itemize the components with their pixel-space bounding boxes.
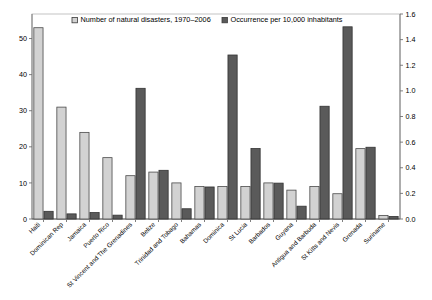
bar-disasters-count [149,172,158,219]
category-label: Haiti [27,221,41,235]
legend-swatch-occurrence [222,17,227,22]
bar-disasters-count [356,149,365,219]
bar-occurrence-rate [67,214,76,219]
right-axis-tick-label: 0.4 [406,163,416,172]
left-axis-tick-label: 30 [19,106,27,115]
left-axis-tick-label: 20 [19,142,27,151]
category-label: Barbados [247,221,271,245]
left-axis-tick-label: 10 [19,179,27,188]
left-axis-tick-label: 40 [19,70,27,79]
bar-disasters-count [218,187,227,219]
bar-occurrence-rate [251,149,260,219]
bar-occurrence-rate [389,216,398,219]
bar-occurrence-rate [113,215,122,219]
bar-disasters-count [310,187,319,219]
bar-occurrence-rate [44,211,53,219]
bar-disasters-count [333,194,342,219]
category-label: Bahamas [178,221,202,245]
bar-occurrence-rate [366,147,375,219]
category-label: Jamaica [65,220,87,242]
left-axis-tick-label: 50 [19,34,27,43]
bar-disasters-count [241,187,250,219]
legend-label-disasters: Number of natural disasters, 1970–2006 [81,15,211,24]
bar-disasters-count [287,190,296,219]
category-label: Guyana [273,220,295,242]
chart-legend: Number of natural disasters, 1970–2006Oc… [72,15,343,24]
bar-occurrence-rate [136,88,145,219]
right-axis-tick-label: 1.2 [406,61,416,70]
bar-disasters-count [264,183,273,219]
bar-chart-figure: 010203040500.00.20.40.60.81.01.21.41.6Ha… [0,0,432,300]
right-axis-tick-label: 0.8 [406,112,416,121]
bar-occurrence-rate [274,183,283,219]
category-label: Trinidad and Tobago [133,220,180,267]
chart-canvas: 010203040500.00.20.40.60.81.01.21.41.6Ha… [0,0,432,300]
bar-occurrence-rate [205,187,214,219]
bar-occurrence-rate [320,106,329,219]
bar-occurrence-rate [228,55,237,219]
category-label: Suriname [362,220,387,245]
right-axis-tick-label: 0.6 [406,138,416,147]
bar-occurrence-rate [297,206,306,219]
bar-occurrence-rate [90,213,99,219]
category-label: St Lucia [227,220,249,242]
category-label: Dominica [201,220,225,244]
bar-disasters-count [195,187,204,219]
bar-disasters-count [34,28,43,219]
right-axis-tick-label: 1.6 [406,10,416,19]
left-axis-tick-label: 0 [23,215,27,224]
right-axis-tick-label: 1.4 [406,35,416,44]
bar-disasters-count [80,132,89,219]
legend-swatch-disasters [72,17,77,22]
legend-label-occurrence: Occurrence per 10,000 inhabitants [231,15,343,24]
bar-disasters-count [103,158,112,219]
bar-disasters-count [126,176,135,219]
right-axis-tick-label: 0.0 [406,215,416,224]
right-axis-tick-label: 0.2 [406,189,416,198]
bar-occurrence-rate [159,170,168,219]
bar-disasters-count [379,215,388,219]
bar-occurrence-rate [182,209,191,219]
right-axis-tick-label: 1.0 [406,86,416,95]
bar-disasters-count [172,183,181,219]
category-label: Grenada [341,220,364,243]
bar-occurrence-rate [343,27,352,219]
category-label: Belize [139,220,157,238]
bar-disasters-count [57,107,66,219]
